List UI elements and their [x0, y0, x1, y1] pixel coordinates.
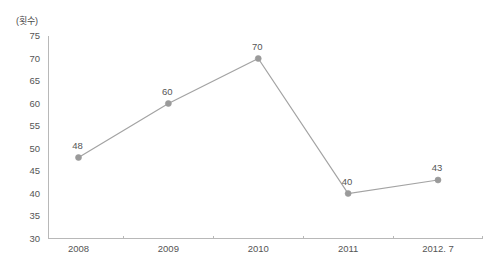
x-axis-tick-label: 2009 — [158, 243, 179, 254]
data-point-marker — [345, 191, 351, 197]
data-point-value-label: 40 — [342, 176, 353, 187]
line-chart-figure: (횟수) 75706560555045403530 20082009201020… — [0, 0, 496, 272]
y-axis-tick-label: 65 — [29, 75, 40, 86]
data-point-value-label: 60 — [162, 86, 173, 97]
chart-canvas: (횟수) 75706560555045403530 20082009201020… — [0, 0, 496, 272]
series-point-labels-group: 4860704043 — [72, 41, 442, 187]
data-point-value-label: 48 — [72, 140, 83, 151]
y-axis-tick-labels: 75706560555045403530 — [29, 30, 40, 244]
data-point-marker — [165, 101, 171, 107]
y-axis-title: (횟수) — [16, 15, 38, 26]
y-axis-tick-label: 45 — [29, 165, 40, 176]
x-axis-tick-label: 2011 — [338, 243, 358, 254]
data-point-marker — [76, 155, 82, 161]
x-axis-tick-label: 2008 — [68, 243, 89, 254]
y-axis-tick-label: 60 — [29, 98, 40, 109]
x-axis-tick-labels: 20082009201020112012. 7 — [68, 243, 454, 254]
y-axis-tick-label: 55 — [29, 120, 40, 131]
x-axis-tick-label: 2010 — [248, 243, 269, 254]
data-point-value-label: 43 — [432, 162, 443, 173]
y-axis-tick-label: 35 — [29, 210, 40, 221]
y-axis-tick-label: 50 — [29, 143, 40, 154]
data-point-marker — [435, 177, 441, 183]
x-axis-tick-label: 2012. 7 — [422, 243, 454, 254]
data-point-marker — [255, 56, 261, 62]
y-axis-tick-label: 40 — [29, 188, 40, 199]
y-axis-tick-label: 70 — [29, 53, 40, 64]
data-point-value-label: 70 — [252, 41, 263, 52]
y-axis-tick-label: 75 — [29, 30, 40, 41]
y-axis-tick-label: 30 — [29, 233, 40, 244]
series-line-path — [79, 59, 439, 194]
